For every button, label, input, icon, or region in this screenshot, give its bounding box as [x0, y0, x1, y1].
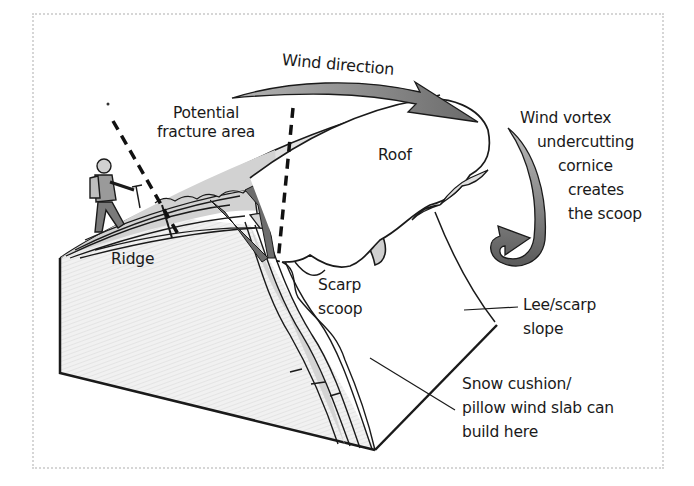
label-line: scoop	[318, 297, 362, 321]
label-line: Lee/scarp	[523, 293, 596, 317]
label-line: Scarp	[318, 273, 362, 297]
label-lee-scarp-slope: Lee/scarp slope	[523, 293, 596, 341]
label-line: Wind vortex	[520, 106, 642, 130]
wind-direction-arrow	[232, 82, 478, 122]
label-ridge: Ridge	[111, 250, 154, 269]
label-line: pillow wind slab can	[462, 396, 614, 420]
label-roof: Roof	[378, 146, 412, 165]
label-potential-fracture-area: Potential fracture area	[146, 104, 266, 142]
label-wind-vortex: Wind vortex undercutting cornice creates…	[520, 106, 642, 226]
dot-marker	[107, 103, 110, 106]
label-line: Snow cushion/	[462, 372, 614, 396]
label-line: cornice	[520, 154, 642, 178]
label-line: slope	[523, 317, 596, 341]
label-line: Potential	[146, 104, 266, 123]
label-line: undercutting	[520, 130, 642, 154]
label-line: the scoop	[520, 202, 642, 226]
label-line: fracture area	[146, 123, 266, 142]
label-line: creates	[520, 178, 642, 202]
label-snow-cushion: Snow cushion/ pillow wind slab can build…	[462, 372, 614, 444]
label-scarp-scoop: Scarp scoop	[318, 273, 362, 321]
label-line: build here	[462, 420, 614, 444]
